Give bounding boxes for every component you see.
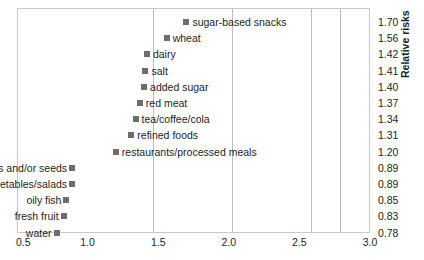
- x-axis-tick-label: 1.5: [151, 234, 166, 250]
- data-point-label: dairy: [153, 46, 176, 62]
- data-point-marker: [63, 197, 69, 203]
- relative-risk-value: 0.89: [378, 176, 398, 192]
- data-point-label: wheat: [173, 30, 201, 46]
- data-point-label: red meat: [146, 95, 187, 111]
- data-point-marker: [164, 35, 170, 41]
- x-axis-tick-label: 1.0: [80, 234, 95, 250]
- relative-risk-value: 1.42: [378, 46, 398, 62]
- data-point-marker: [144, 51, 150, 57]
- relative-risk-value: 1.40: [378, 79, 398, 95]
- data-point-marker: [141, 84, 147, 90]
- table-row: oily fish0.85: [0, 192, 424, 208]
- x-axis: 0.51.01.52.02.53.0: [0, 234, 424, 250]
- relative-risk-value: 1.34: [378, 111, 398, 127]
- data-point-marker: [128, 132, 134, 138]
- relative-risk-value: 1.31: [378, 127, 398, 143]
- table-row: nuts and/or seeds0.89: [0, 160, 424, 176]
- table-row: sugar-based snacks1.70: [0, 14, 424, 30]
- relative-risk-value: 1.56: [378, 30, 398, 46]
- x-axis-tick-label: 2.0: [221, 234, 236, 250]
- relative-risks-chart: sugar-based snacks1.70wheat1.56dairy1.42…: [0, 0, 424, 260]
- data-point-marker: [137, 100, 143, 106]
- table-row: vegetables/salads0.89: [0, 176, 424, 192]
- x-axis-tick-label: 0.5: [16, 234, 31, 250]
- relative-risk-value: 0.89: [378, 160, 398, 176]
- table-row: restaurants/processed meals1.20: [0, 144, 424, 160]
- data-point-label: vegetables/salads: [0, 176, 67, 192]
- data-point-label: restaurants/processed meals: [122, 144, 257, 160]
- relative-risk-value: 0.83: [378, 208, 398, 224]
- x-axis-tick-label: 2.5: [292, 234, 307, 250]
- data-point-marker: [133, 116, 139, 122]
- table-row: fresh fruit0.83: [0, 208, 424, 224]
- relative-risk-value: 0.85: [378, 192, 398, 208]
- y-axis-title: Relative risks: [399, 62, 411, 78]
- table-row: tea/coffee/cola1.34: [0, 111, 424, 127]
- data-point-marker: [61, 213, 67, 219]
- data-point-label: nuts and/or seeds: [0, 160, 67, 176]
- relative-risk-value: 1.37: [378, 95, 398, 111]
- data-point-marker: [69, 181, 75, 187]
- table-row: refined foods1.31: [0, 127, 424, 143]
- table-row: dairy1.42: [0, 46, 424, 62]
- table-row: salt1.41: [0, 63, 424, 79]
- data-point-label: sugar-based snacks: [192, 14, 286, 30]
- data-point-marker: [183, 19, 189, 25]
- relative-risk-value: 1.41: [378, 63, 398, 79]
- relative-risk-value: 1.20: [378, 144, 398, 160]
- data-point-label: added sugar: [150, 79, 208, 95]
- data-point-label: fresh fruit: [15, 208, 59, 224]
- data-point-label: oily fish: [26, 192, 61, 208]
- x-axis-tick-label: 3.0: [363, 234, 378, 250]
- table-row: added sugar1.40: [0, 79, 424, 95]
- data-point-marker: [69, 165, 75, 171]
- data-point-marker: [142, 68, 148, 74]
- data-point-label: salt: [151, 63, 167, 79]
- data-point-label: refined foods: [137, 127, 198, 143]
- data-point-marker: [113, 149, 119, 155]
- data-rows: sugar-based snacks1.70wheat1.56dairy1.42…: [0, 0, 424, 260]
- relative-risk-value: 1.70: [378, 14, 398, 30]
- data-point-label: tea/coffee/cola: [142, 111, 210, 127]
- table-row: red meat1.37: [0, 95, 424, 111]
- table-row: wheat1.56: [0, 30, 424, 46]
